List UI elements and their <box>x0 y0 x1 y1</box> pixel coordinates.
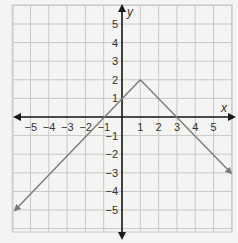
x-tick-label: 4 <box>192 121 198 133</box>
function-graph <box>15 80 231 210</box>
y-tick-label: 2 <box>112 74 118 86</box>
x-tick-label: 2 <box>156 121 162 133</box>
y-axis-label: y <box>126 5 134 19</box>
y-tick-label: −3 <box>105 167 118 179</box>
y-tick-label: 3 <box>112 55 118 67</box>
x-tick-label: 5 <box>211 121 217 133</box>
x-axis-label: x <box>220 101 228 115</box>
coordinate-plane: −5−4−3−2−112345−5−4−3−2−112345 x y <box>0 0 238 243</box>
y-tick-label: 4 <box>112 37 118 49</box>
y-tick-label: −4 <box>105 185 118 197</box>
x-tick-label: −3 <box>61 121 74 133</box>
y-tick-label: 1 <box>112 92 118 104</box>
x-tick-label: −4 <box>43 121 56 133</box>
x-tick-label: −5 <box>25 121 38 133</box>
graph-right-ray <box>140 80 231 173</box>
y-tick-label: 5 <box>112 18 118 30</box>
x-tick-label: 1 <box>137 121 143 133</box>
x-tick-label: 3 <box>174 121 180 133</box>
y-tick-label: −5 <box>105 204 118 216</box>
y-tick-label: −2 <box>105 148 118 160</box>
y-tick-label: −1 <box>105 130 118 142</box>
